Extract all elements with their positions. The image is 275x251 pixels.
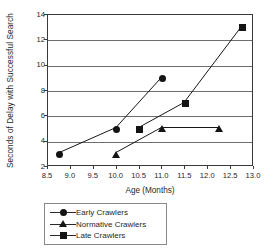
data-point-triangle <box>158 125 166 132</box>
data-point-circle <box>56 151 63 158</box>
x-axis-tick-mark <box>184 166 185 169</box>
series-layer <box>48 15 252 165</box>
x-axis-tick-mark <box>70 166 71 169</box>
data-point-circle <box>159 75 166 82</box>
y-axis-tick-label: 10 <box>23 60 45 69</box>
chart-figure: Seconds of Delay with Successful Search … <box>0 0 275 251</box>
series-line <box>139 28 241 128</box>
y-axis-tick-label: 4 <box>23 136 45 145</box>
data-point-triangle <box>112 151 120 158</box>
legend-item-label: Early Crawlers <box>76 208 128 217</box>
y-axis-tick-label: 2 <box>23 162 45 171</box>
y-axis-tick-label: 14 <box>23 10 45 19</box>
y-axis-tick-label: 12 <box>23 35 45 44</box>
x-axis-tick-mark <box>230 166 231 169</box>
legend-item[interactable]: Early Crawlers <box>50 207 166 219</box>
series-line <box>59 78 161 153</box>
x-axis-tick-mark <box>116 166 117 169</box>
y-axis-tick-label: 8 <box>23 86 45 95</box>
legend-marker-triangle-icon <box>50 219 76 230</box>
data-point-square <box>136 126 143 133</box>
x-axis-tick-mark <box>161 166 162 169</box>
data-point-square <box>182 100 189 107</box>
data-point-triangle <box>215 125 223 132</box>
series-line <box>116 128 218 153</box>
data-point-square <box>239 24 246 31</box>
legend-item-label: Normative Crawlers <box>76 220 146 229</box>
x-axis-tick-mark <box>139 166 140 169</box>
legend-item[interactable]: Normative Crawlers <box>50 219 166 231</box>
y-axis-title: Seconds of Delay with Successful Search <box>6 13 15 168</box>
legend-marker-circle-icon <box>50 207 76 218</box>
y-axis-tick-label: 6 <box>23 111 45 120</box>
x-axis-tick-mark <box>47 166 48 169</box>
x-axis-tick-mark <box>253 166 254 169</box>
data-point-circle <box>113 126 120 133</box>
x-axis-title: Age (Months) <box>47 186 253 195</box>
x-axis-tick-mark <box>93 166 94 169</box>
legend-marker-square-icon <box>50 230 76 241</box>
plot-area <box>47 14 253 166</box>
x-axis-tick-mark <box>207 166 208 169</box>
x-axis-tick-label: 13.0 <box>240 171 266 180</box>
legend-item-label: Late Crawlers <box>76 231 125 240</box>
y-axis-title-container: Seconds of Delay with Successful Search <box>0 0 20 180</box>
legend: Early Crawlers Normative Crawlers Late C… <box>44 203 167 245</box>
legend-item[interactable]: Late Crawlers <box>50 230 166 242</box>
